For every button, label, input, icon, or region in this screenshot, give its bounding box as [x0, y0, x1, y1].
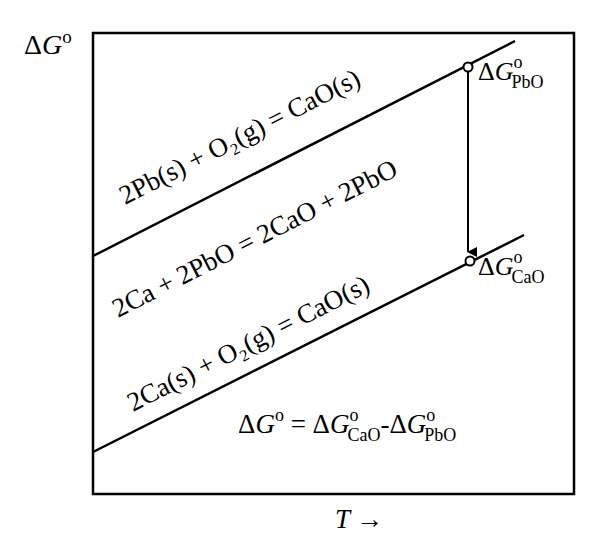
pbo-point-marker	[464, 63, 473, 72]
x-axis-label: T→	[335, 504, 383, 534]
pbo-point-label: ΔGoPbO	[478, 52, 544, 92]
cao-point-marker	[466, 257, 475, 266]
gibbs-energy-diagram: ΔGo T→ 2Pb(s) + O₂(g) = CaO(s) 2Ca + 2Pb…	[0, 0, 605, 545]
y-axis-label: ΔGo	[24, 26, 72, 60]
delta-g-equation: ΔGo = ΔGoCaO-ΔGoPbO	[238, 405, 456, 445]
cao-point-label: ΔGoCaO	[478, 247, 545, 287]
